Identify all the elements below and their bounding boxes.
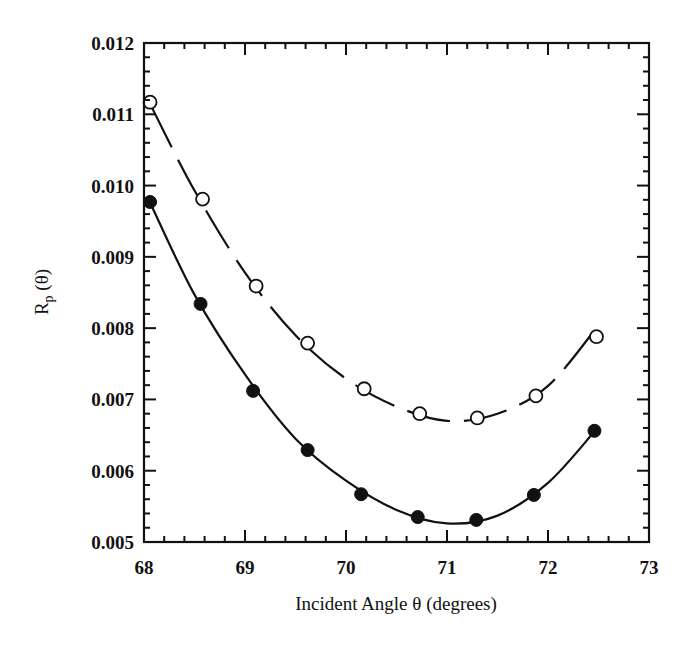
filled-circle-marker — [470, 513, 483, 526]
x-tick-label: 70 — [337, 557, 356, 578]
y-tick-label: 0.010 — [91, 176, 134, 197]
y-tick-label: 0.008 — [91, 318, 134, 339]
y-tick-label: 0.007 — [91, 389, 134, 410]
x-axis-title: Incident Angle θ (degrees) — [295, 593, 497, 615]
x-tick-label: 68 — [135, 557, 154, 578]
y-axis-title-subscript: p — [41, 295, 56, 302]
y-tick-label: 0.006 — [91, 461, 134, 482]
x-tick-labels: 686970717273 — [135, 557, 659, 578]
y-tick-label: 0.009 — [91, 247, 134, 268]
y-axis-title-main: R — [31, 302, 52, 315]
open-circle-marker — [250, 280, 263, 293]
open-circle-marker — [590, 330, 603, 343]
filled-circle-marker — [527, 488, 540, 501]
open-circle-marker — [471, 411, 484, 424]
x-tick-label: 71 — [438, 557, 457, 578]
open-circle-marker — [144, 96, 157, 109]
open-circle-marker — [358, 382, 371, 395]
filled-circle-marker — [194, 297, 207, 310]
filled-circle-marker — [355, 488, 368, 501]
y-tick-label: 0.011 — [92, 104, 134, 125]
open-circle-marker — [196, 193, 209, 206]
y-tick-label: 0.012 — [91, 33, 134, 54]
filled-circle-marker — [247, 384, 260, 397]
y-axis-title-rest: (θ) — [31, 269, 53, 296]
x-tick-label: 72 — [539, 557, 558, 578]
y-tick-labels: 0.0050.0060.0070.0080.0090.0100.0110.012 — [91, 33, 134, 553]
fit-curves — [152, 108, 598, 524]
dashed-fit-curve — [152, 108, 598, 421]
data-markers — [144, 96, 603, 527]
chart-canvas: 686970717273 0.0050.0060.0070.0080.0090.… — [0, 0, 695, 652]
y-axis-title: Rp (θ) — [31, 269, 56, 315]
filled-circle-marker — [144, 195, 157, 208]
axis-ticks — [144, 43, 649, 542]
x-tick-label: 69 — [236, 557, 255, 578]
filled-circle-marker — [301, 444, 314, 457]
filled-circle-marker — [588, 424, 601, 437]
solid-fit-curve — [152, 207, 594, 524]
y-tick-label: 0.005 — [91, 532, 134, 553]
open-circle-marker — [529, 389, 542, 402]
x-tick-label: 73 — [640, 557, 659, 578]
plot-frame — [144, 43, 649, 542]
filled-circle-marker — [411, 511, 424, 524]
open-circle-marker — [413, 407, 426, 420]
open-circle-marker — [301, 337, 314, 350]
